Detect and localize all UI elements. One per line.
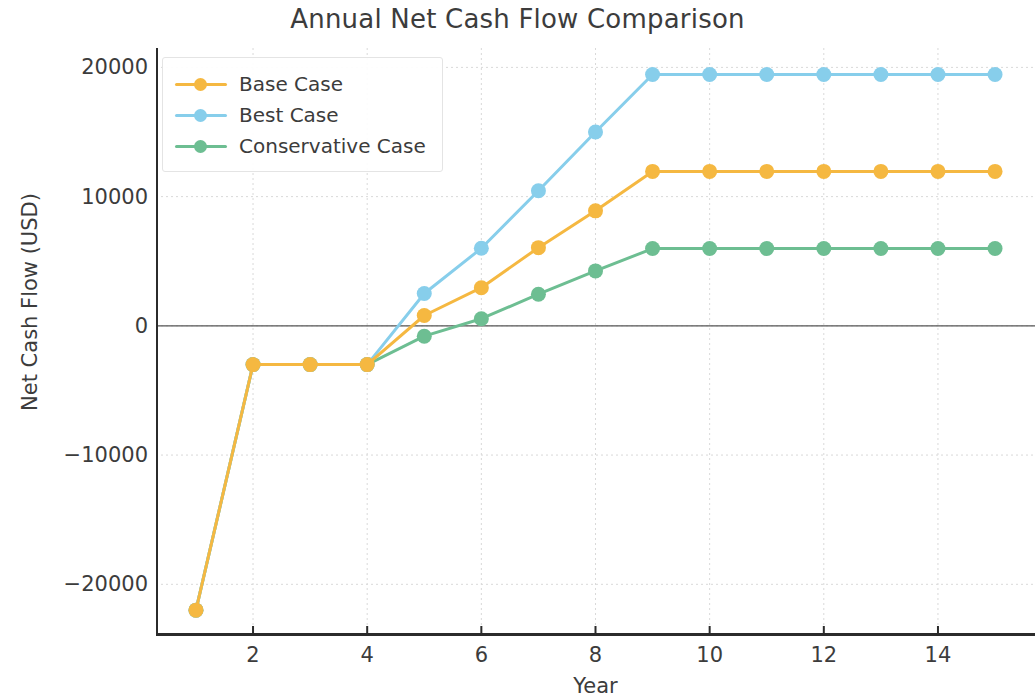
x-axis-tick-label: 14 [908,643,968,667]
chart-legend: Base CaseBest CaseConservative Case [162,57,443,172]
chart-figure: Annual Net Cash Flow Comparison −20000−1… [0,0,1035,700]
legend-label: Best Case [239,103,339,127]
x-axis-tick-label: 8 [566,643,626,667]
x-axis-tick-label: 10 [680,643,740,667]
legend-marker-icon [194,109,207,122]
legend-item[interactable]: Conservative Case [175,130,426,161]
legend-item[interactable]: Best Case [175,99,426,130]
y-axis-tick-label: 20000 [8,55,148,79]
legend-marker-icon [194,140,207,153]
x-axis-tick-label: 6 [451,643,511,667]
y-axis-tick-label: −20000 [8,572,148,596]
legend-label: Base Case [239,72,343,96]
legend-marker-icon [194,78,207,91]
x-axis-tick-label: 2 [223,643,283,667]
legend-item[interactable]: Base Case [175,68,426,99]
legend-swatch-icon [175,75,227,93]
legend-swatch-icon [175,137,227,155]
x-axis-label: Year [156,674,1035,698]
y-axis-label: Net Cash Flow (USD) [18,92,42,512]
legend-label: Conservative Case [239,134,426,158]
x-axis-tick-label: 12 [794,643,854,667]
chart-title: Annual Net Cash Flow Comparison [0,4,1035,34]
legend-swatch-icon [175,106,227,124]
x-axis-tick-label: 4 [337,643,397,667]
